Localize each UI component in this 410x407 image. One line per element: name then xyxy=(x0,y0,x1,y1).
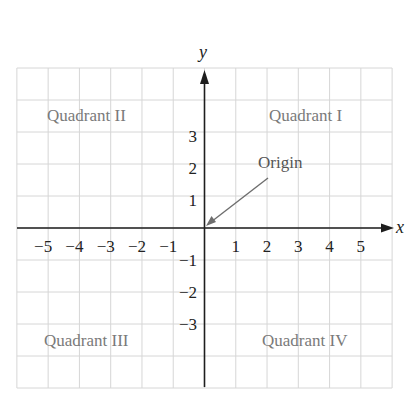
y-tick-label: 3 xyxy=(189,127,198,146)
coordinate-plane: x y −5−4−3−2−112345 321−1−2−3 Quadrant I… xyxy=(0,0,410,407)
x-tick-label: 3 xyxy=(294,237,303,256)
origin-label: Origin xyxy=(258,153,303,172)
x-tick-label: −3 xyxy=(97,237,115,256)
x-tick-label: −2 xyxy=(128,237,146,256)
x-tick-labels: −5−4−3−2−112345 xyxy=(34,237,365,256)
x-axis-label: x xyxy=(395,217,404,237)
quadrant-ii-label: Quadrant II xyxy=(47,106,126,125)
quadrant-iv-label: Quadrant IV xyxy=(262,331,348,350)
quadrant-i-label: Quadrant I xyxy=(269,106,343,125)
origin-pointer xyxy=(211,178,268,222)
y-tick-label: 2 xyxy=(189,159,198,178)
x-tick-label: 4 xyxy=(325,237,334,256)
x-tick-label: 1 xyxy=(232,237,241,256)
x-tick-label: −4 xyxy=(65,237,84,256)
y-axis-arrow-icon xyxy=(200,70,209,84)
y-tick-labels: 321−1−2−3 xyxy=(179,127,197,334)
x-tick-label: 5 xyxy=(357,237,366,256)
y-tick-label: −3 xyxy=(179,315,197,334)
quadrant-iii-label: Quadrant III xyxy=(44,331,129,350)
x-tick-label: −1 xyxy=(159,237,177,256)
y-tick-label: −2 xyxy=(179,283,197,302)
y-tick-label: 1 xyxy=(189,191,198,210)
origin-pointer-arrowhead-icon xyxy=(206,216,216,226)
y-axis-label: y xyxy=(197,42,207,62)
y-tick-label: −1 xyxy=(179,251,197,270)
x-tick-label: −5 xyxy=(34,237,52,256)
x-tick-label: 2 xyxy=(263,237,272,256)
